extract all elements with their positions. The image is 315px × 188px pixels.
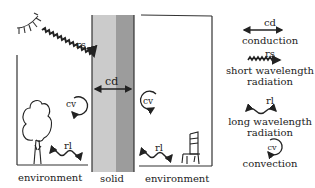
rl-right-wave	[140, 153, 172, 158]
legend-cd-symbol: cd	[225, 17, 315, 28]
rl-left-wave	[50, 151, 82, 156]
cv-right-label: cv	[143, 96, 153, 107]
environment-left-label: environment	[18, 172, 82, 183]
chair-icon	[182, 132, 200, 164]
legend-rl-symbol: rl	[225, 95, 315, 106]
legend-long-wavelength: long wavelength	[225, 116, 315, 127]
solid-wall	[92, 15, 134, 172]
cv-left-label: cv	[66, 99, 76, 110]
sun-icon	[17, 13, 41, 34]
legend-short-wavelength: short wavelength	[225, 65, 315, 76]
rl-left-label: rl	[64, 140, 72, 151]
legend-rs-symbol: rs	[225, 48, 315, 59]
tree-icon	[23, 101, 52, 164]
rs-zigzag-arrow	[42, 28, 94, 56]
legend-convection: convection	[225, 158, 315, 169]
right-environment-box	[139, 15, 212, 166]
legend-cv-symbol: cv	[227, 142, 315, 153]
legend-long-radiation: radiation	[225, 127, 315, 138]
rs-label: rs	[76, 39, 86, 50]
solid-label: solid	[100, 173, 124, 184]
legend-short-radiation: radiation	[225, 76, 315, 87]
cd-label: cd	[105, 76, 118, 87]
wave-double-arrow-icon	[246, 109, 276, 114]
left-environment-box	[17, 55, 88, 165]
legend-conduction: conduction	[225, 35, 315, 46]
environment-right-label: environment	[145, 173, 209, 184]
rl-right-label: rl	[155, 142, 163, 153]
